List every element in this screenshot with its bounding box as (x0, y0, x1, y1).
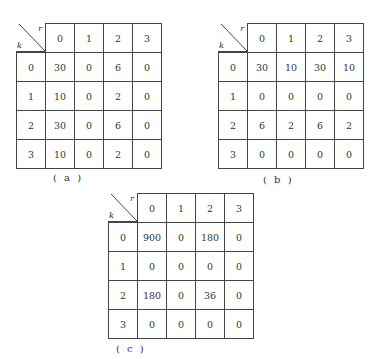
col-header: 2 (195, 193, 225, 223)
table-c: r k 0 1 2 3 0 900 0 180 0 1 0 0 0 0 2 18… (108, 193, 254, 339)
caption-c: ( c ) (116, 343, 146, 354)
table-cell: 6 (103, 52, 133, 82)
row-header: 0 (218, 52, 248, 82)
row-header: 2 (108, 280, 138, 310)
row-header: 3 (108, 309, 138, 339)
table-cell: 0 (74, 52, 104, 82)
row-header: 0 (108, 222, 138, 252)
table-cell: 30 (247, 52, 277, 82)
table-cell: 0 (247, 139, 277, 169)
table-cell: 2 (103, 81, 133, 111)
table-cell: 900 (137, 222, 167, 252)
col-header: 3 (132, 23, 162, 53)
table-cell: 30 (305, 52, 335, 82)
table-cell: 0 (195, 251, 225, 281)
table-cell: 0 (276, 81, 306, 111)
table-cell: 10 (45, 81, 75, 111)
table-cell: 0 (137, 251, 167, 281)
table-cell: 0 (224, 251, 254, 281)
table-cell: 0 (132, 81, 162, 111)
table-cell: 0 (166, 309, 196, 339)
col-axis-label: r (240, 24, 244, 33)
table-cell: 0 (132, 139, 162, 169)
table-cell: 0 (305, 139, 335, 169)
table-cell: 0 (305, 81, 335, 111)
table-cell: 0 (166, 222, 196, 252)
table-cell: 180 (137, 280, 167, 310)
table-cell: 6 (305, 110, 335, 140)
table-cell: 0 (137, 309, 167, 339)
row-axis-label: k (109, 211, 114, 220)
table-cell: 0 (132, 52, 162, 82)
row-header: 2 (218, 110, 248, 140)
row-axis-label: k (219, 41, 224, 50)
col-header: 0 (45, 23, 75, 53)
table-cell: 2 (276, 110, 306, 140)
table-cell: 0 (195, 309, 225, 339)
table-a: r k 0 1 2 3 0 30 0 6 0 1 10 0 2 0 2 30 0… (16, 23, 162, 169)
table-cell: 2 (334, 110, 364, 140)
col-header: 2 (305, 23, 335, 53)
table-b: r k 0 1 2 3 0 30 10 30 10 1 0 0 0 0 2 6 … (218, 23, 364, 169)
col-header: 0 (247, 23, 277, 53)
table-cell: 2 (103, 139, 133, 169)
row-header: 1 (16, 81, 46, 111)
axis-corner: r k (16, 23, 46, 52)
row-header: 3 (16, 139, 46, 169)
table-cell: 0 (166, 280, 196, 310)
table-cell: 0 (166, 251, 196, 281)
row-axis-label: k (17, 41, 22, 50)
table-cell: 0 (334, 81, 364, 111)
row-header: 3 (218, 139, 248, 169)
table-cell: 0 (224, 222, 254, 252)
col-header: 3 (224, 193, 254, 223)
axis-corner: r k (108, 193, 138, 222)
caption-b: ( b ) (263, 174, 294, 185)
table-cell: 10 (45, 139, 75, 169)
table-cell: 36 (195, 280, 225, 310)
table-cell: 0 (224, 280, 254, 310)
table-cell: 0 (224, 309, 254, 339)
table-cell: 30 (45, 110, 75, 140)
table-cell: 6 (247, 110, 277, 140)
col-header: 2 (103, 23, 133, 53)
col-header: 3 (334, 23, 364, 53)
table-cell: 0 (74, 139, 104, 169)
table-cell: 10 (276, 52, 306, 82)
row-header: 0 (16, 52, 46, 82)
table-cell: 0 (276, 139, 306, 169)
col-axis-label: r (130, 194, 134, 203)
table-cell: 0 (74, 110, 104, 140)
col-header: 1 (276, 23, 306, 53)
axis-corner: r k (218, 23, 248, 52)
row-header: 1 (108, 251, 138, 281)
col-axis-label: r (38, 24, 42, 33)
table-cell: 30 (45, 52, 75, 82)
table-cell: 0 (74, 81, 104, 111)
col-header: 1 (166, 193, 196, 223)
table-cell: 0 (247, 81, 277, 111)
table-cell: 6 (103, 110, 133, 140)
row-header: 1 (218, 81, 248, 111)
col-header: 0 (137, 193, 167, 223)
table-cell: 180 (195, 222, 225, 252)
row-header: 2 (16, 110, 46, 140)
caption-a: ( a ) (53, 172, 83, 183)
table-cell: 10 (334, 52, 364, 82)
table-cell: 0 (334, 139, 364, 169)
col-header: 1 (74, 23, 104, 53)
table-cell: 0 (132, 110, 162, 140)
